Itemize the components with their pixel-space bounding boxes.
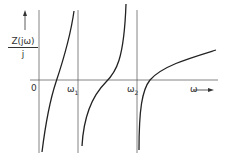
y-arrow-icon (23, 10, 27, 30)
y-axis-label: Z(jω) j (8, 36, 38, 59)
origin-label: 0 (31, 84, 37, 93)
reactance-plot (0, 0, 228, 159)
omega1-symbol: ω (67, 84, 75, 94)
omega1-label: ω1 (67, 85, 78, 96)
y-label-numerator: Z(jω) (8, 36, 38, 48)
omega2-symbol: ω (127, 84, 135, 94)
y-label-denominator: j (8, 48, 38, 59)
curve-branch-3 (139, 50, 216, 150)
omega2-sub: 2 (135, 89, 139, 96)
curve-branch-2 (82, 4, 126, 146)
curve-branch-1 (42, 11, 74, 152)
x-axis-label: ω (190, 85, 198, 94)
omega1-sub: 1 (75, 89, 79, 96)
omega2-label: ω2 (127, 85, 138, 96)
